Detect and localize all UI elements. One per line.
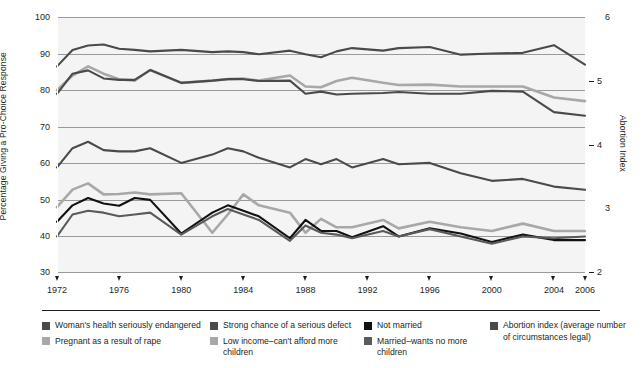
legend-item-label: Not married: [377, 320, 422, 332]
legend-swatch-icon: [42, 322, 50, 330]
x-tick-mark-1984: [241, 276, 245, 281]
series-lines: [57, 17, 585, 273]
legend-item[interactable]: Strong chance of a serious defect: [210, 320, 364, 332]
x-tick-mark-1996: [427, 276, 431, 281]
plot-area: [57, 17, 585, 273]
series-line-1: [57, 66, 585, 101]
ytick-right-label-4: 4: [597, 140, 602, 150]
x-tick-label-1980: 1980: [161, 286, 201, 295]
chart-figure: 100 90 80 70 60 50 40 30 6 5 4 3 2 Perce…: [0, 0, 642, 368]
ytick-left-6: 40: [14, 232, 50, 241]
axis-left-rule: [57, 17, 58, 273]
ytick-right-4: 4: [589, 141, 602, 150]
legend-column-2: Strong chance of a serious defectLow inc…: [210, 320, 364, 359]
legend-swatch-icon: [364, 337, 372, 345]
x-tick-label-1984: 1984: [223, 286, 263, 295]
x-tick-label-1992: 1992: [348, 286, 388, 295]
legend-swatch-icon: [210, 337, 218, 345]
x-tick-mark-1988: [303, 276, 307, 281]
x-tick-mark-2006: [583, 276, 587, 281]
ytick-right-2: 2: [589, 268, 602, 277]
legend-item[interactable]: Not married: [364, 320, 490, 332]
x-tick-label-1972: 1972: [37, 286, 77, 295]
ytick-right-dash-2: [589, 272, 594, 273]
x-tick-mark-1976: [117, 276, 121, 281]
series-line-3: [57, 183, 585, 232]
legend: Woman's health seriously endangeredPregn…: [42, 320, 638, 359]
x-tick-mark-2000: [489, 276, 493, 281]
series-line-6: [57, 142, 585, 190]
legend-swatch-icon: [210, 322, 218, 330]
legend-item-label: Woman's health seriously endangered: [55, 320, 201, 332]
ytick-right-dash-4: [589, 145, 594, 146]
y-axis-title-right: Abortion Index: [618, 115, 628, 172]
legend-swatch-icon: [42, 337, 50, 345]
legend-item-label: Pregnant as a result of rape: [55, 336, 161, 348]
x-tick-label-2000: 2000: [472, 286, 512, 295]
x-tick-mark-1972: [55, 276, 59, 281]
x-tick-label-1988: 1988: [285, 286, 325, 295]
series-line-0: [57, 44, 585, 66]
legend-swatch-icon: [490, 322, 498, 330]
ytick-right-dash-5: [589, 81, 594, 82]
legend-column-1: Woman's health seriously endangeredPregn…: [42, 320, 210, 359]
legend-item[interactable]: Pregnant as a result of rape: [42, 336, 210, 348]
ytick-right-5: 5: [589, 77, 602, 86]
legend-item-label: Strong chance of a serious defect: [223, 320, 351, 332]
legend-item-label: Low income–can't afford more children: [223, 336, 364, 359]
legend-item[interactable]: Abortion index (average number of circum…: [490, 320, 630, 343]
ytick-left-3: 70: [14, 123, 50, 132]
legend-item[interactable]: Married–wants no more children: [364, 336, 490, 359]
ytick-right-3: 3: [597, 204, 610, 213]
legend-item[interactable]: Woman's health seriously endangered: [42, 320, 210, 332]
x-tick-label-2006: 2006: [565, 286, 605, 295]
ytick-left-7: 30: [14, 268, 50, 277]
legend-item[interactable]: Low income–can't afford more children: [210, 336, 364, 359]
legend-divider: [42, 310, 600, 311]
legend-item-label: Married–wants no more children: [377, 336, 490, 359]
y-axis-title-left: Percentage Giving a Pro-Choice Response: [0, 0, 8, 52]
ytick-right-label-5: 5: [597, 76, 602, 86]
ytick-left-4: 60: [14, 159, 50, 168]
ytick-left-2: 80: [14, 86, 50, 95]
legend-item-label: Abortion index (average number of circum…: [503, 320, 630, 343]
legend-column-3: Not marriedMarried–wants no more childre…: [364, 320, 490, 359]
x-tick-mark-2004: [551, 276, 555, 281]
ytick-right-6: 6: [597, 13, 610, 22]
x-tick-label-1996: 1996: [410, 286, 450, 295]
legend-swatch-icon: [364, 322, 372, 330]
x-tick-mark-1992: [365, 276, 369, 281]
ytick-left-1: 90: [14, 50, 50, 59]
legend-column-4: Abortion index (average number of circum…: [490, 320, 630, 359]
y-axis-title-left-text: Percentage Giving a Pro-Choice Response: [0, 52, 8, 220]
ytick-right-label-2: 2: [597, 267, 602, 277]
series-line-2: [57, 70, 585, 116]
ytick-left-5: 50: [14, 196, 50, 205]
x-tick-label-1976: 1976: [99, 286, 139, 295]
x-tick-mark-1980: [179, 276, 183, 281]
ytick-left-0: 100: [14, 13, 50, 22]
